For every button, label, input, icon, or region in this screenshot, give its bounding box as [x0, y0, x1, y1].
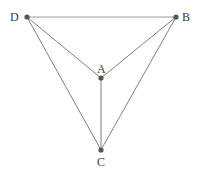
graph-vertex — [98, 75, 103, 80]
vertex-label-c: C — [97, 156, 105, 168]
graph-figure: DBAC — [0, 0, 201, 178]
graph-canvas — [0, 0, 201, 178]
graph-edge — [27, 17, 101, 78]
graph-edge — [101, 17, 176, 150]
graph-vertex — [98, 147, 103, 152]
graph-vertex — [173, 14, 178, 19]
vertex-label-a: A — [97, 63, 106, 75]
graph-edge — [27, 17, 101, 150]
vertex-label-d: D — [10, 11, 19, 23]
edges-group — [27, 17, 176, 150]
vertex-label-b: B — [182, 11, 190, 23]
graph-vertex — [24, 14, 29, 19]
graph-edge — [101, 17, 176, 78]
